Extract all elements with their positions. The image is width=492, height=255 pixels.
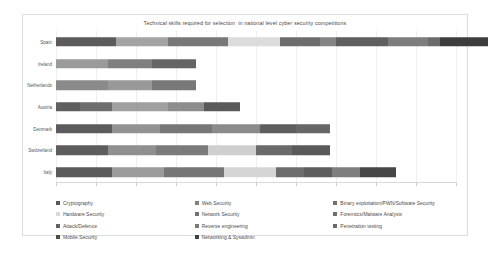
legend-swatch-icon (56, 212, 60, 216)
bar-segment[interactable] (276, 167, 304, 177)
legend-item[interactable]: Forensics/Malware Analysis (333, 209, 466, 221)
legend-item[interactable]: Network Security (195, 209, 328, 221)
bar-segment[interactable] (116, 37, 168, 47)
x-tick (336, 183, 337, 186)
bar-segment[interactable] (336, 37, 388, 47)
bar-segment[interactable] (320, 37, 336, 47)
legend-label: Hardware Security (63, 211, 104, 217)
legend-swatch-icon (56, 224, 60, 228)
bar-segment[interactable] (292, 146, 330, 156)
legend-item[interactable]: Attack/Defence (56, 220, 189, 232)
bar-segment[interactable] (164, 167, 224, 177)
bar-segment[interactable] (56, 81, 108, 91)
legend-swatch-icon (56, 201, 60, 205)
legend-label: Forensics/Malware Analysis (340, 211, 402, 217)
bar-segment[interactable] (296, 124, 330, 134)
stacked-bar[interactable] (56, 102, 240, 112)
legend-item[interactable]: Web Security (195, 197, 328, 209)
bar-segment[interactable] (108, 146, 156, 156)
legend-swatch-icon (333, 224, 337, 228)
stacked-bar[interactable] (56, 81, 196, 91)
stacked-bar[interactable] (56, 124, 330, 134)
bar-segment[interactable] (112, 124, 160, 134)
y-axis-label: Denmark (33, 126, 52, 131)
legend-label: Cryptography (63, 200, 93, 206)
legend-swatch-icon (195, 235, 199, 239)
bar-segment[interactable] (56, 102, 80, 112)
bar-segment[interactable] (108, 81, 152, 91)
bar-segment[interactable] (428, 37, 440, 47)
x-tick (296, 183, 297, 186)
legend-label: Networking & Sysadmin (202, 234, 255, 240)
bar-row[interactable]: Austria (56, 96, 456, 118)
bar-segment[interactable] (212, 124, 260, 134)
stacked-bar[interactable] (56, 37, 488, 47)
legend-item[interactable]: Networking & Sysadmin (195, 232, 328, 244)
bar-segment[interactable] (440, 37, 488, 47)
bar-row[interactable]: Netherlands (56, 74, 456, 96)
x-tick (96, 183, 97, 186)
legend-label: Network Security (202, 211, 240, 217)
bar-segment[interactable] (304, 167, 332, 177)
x-tick (136, 183, 137, 186)
bar-segment[interactable] (112, 102, 168, 112)
legend-swatch-icon (195, 212, 199, 216)
bar-segment[interactable] (332, 167, 360, 177)
stacked-bar[interactable] (56, 167, 396, 177)
chart-container: Technical skills required for selection … (22, 14, 468, 236)
bar-row[interactable]: Denmark (56, 118, 456, 140)
plot-area: SpainIrelandNetherlandsAustriaDenmarkSwi… (56, 31, 456, 183)
bar-segment[interactable] (388, 37, 428, 47)
bar-segment[interactable] (256, 146, 292, 156)
x-tick (216, 183, 217, 186)
bar-segment[interactable] (56, 167, 112, 177)
bar-row[interactable]: Italy (56, 161, 456, 183)
bar-segment[interactable] (280, 37, 320, 47)
bar-segment[interactable] (56, 124, 112, 134)
gridline (456, 31, 457, 183)
legend-item[interactable]: Penetration testing (333, 220, 466, 232)
legend-label: Penetration testing (340, 223, 382, 229)
legend-item[interactable]: Cryptography (56, 197, 189, 209)
bar-segment[interactable] (56, 59, 108, 69)
bar-segment[interactable] (168, 102, 204, 112)
legend-label: Mobile Security (63, 234, 97, 240)
bar-segment[interactable] (360, 167, 396, 177)
bar-segment[interactable] (56, 146, 108, 156)
y-axis-label: Spain (40, 39, 52, 44)
legend-label: Attack/Defence (63, 223, 97, 229)
bar-segment[interactable] (156, 146, 208, 156)
y-axis-label: Netherlands (27, 83, 52, 88)
bar-segment[interactable] (208, 146, 256, 156)
legend-label: Reverse engineering (202, 223, 248, 229)
bar-row[interactable]: Ireland (56, 53, 456, 75)
bar-segment[interactable] (112, 167, 164, 177)
bar-segment[interactable] (224, 167, 276, 177)
legend-label: Binary exploitation/PWN/Software Securit… (340, 200, 434, 206)
bar-row[interactable]: Switzerland (56, 140, 456, 162)
stacked-bar[interactable] (56, 146, 330, 156)
bar-segment[interactable] (108, 59, 152, 69)
legend-swatch-icon (195, 201, 199, 205)
bar-segment[interactable] (260, 124, 296, 134)
legend-item[interactable]: Reverse engineering (195, 220, 328, 232)
legend-item[interactable]: Hardware Security (56, 209, 189, 221)
bar-segment[interactable] (204, 102, 240, 112)
bar-segment[interactable] (152, 81, 196, 91)
y-axis-label: Italy (44, 170, 52, 175)
bar-segment[interactable] (168, 37, 228, 47)
bar-row[interactable]: Spain (56, 31, 456, 53)
x-tick (416, 183, 417, 186)
bar-segment[interactable] (56, 37, 116, 47)
bar-segment[interactable] (228, 37, 280, 47)
y-axis-label: Ireland (38, 61, 52, 66)
x-tick (376, 183, 377, 186)
stacked-bar[interactable] (56, 59, 196, 69)
legend-item[interactable]: Mobile Security (56, 232, 189, 244)
bar-segment[interactable] (160, 124, 212, 134)
y-axis-label: Austria (38, 104, 52, 109)
legend-item[interactable]: Binary exploitation/PWN/Software Securit… (333, 197, 466, 209)
bar-segment[interactable] (80, 102, 112, 112)
bar-segment[interactable] (152, 59, 196, 69)
x-tick (56, 183, 57, 186)
